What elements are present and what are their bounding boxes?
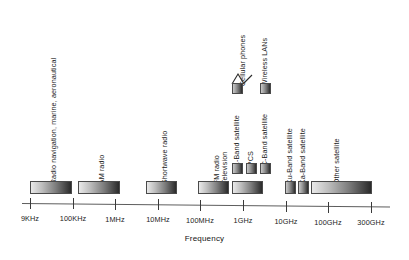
axis-tick-label-300ghz: 300GHz (357, 218, 384, 227)
axis-tick-label-100ghz: 100GHz (314, 218, 341, 227)
band-bar-am-radio (78, 181, 120, 194)
frequency-axis-line (22, 203, 390, 208)
band-label-l-band-satellite: L-Band satellite (233, 115, 240, 166)
band-label-other-satellite: Other satellite (333, 138, 340, 184)
axis-tick (286, 201, 287, 212)
axis-tick (73, 198, 74, 209)
band-label-am-radio: AM radio (98, 155, 105, 185)
band-label-wireless-lans: Wireless LANs (261, 38, 268, 86)
axis-tick-label-9khz: 9KHz (21, 214, 39, 223)
band-bar-ka-band-satellite (298, 181, 309, 194)
axis-tick (371, 202, 372, 213)
axis-tick (115, 199, 116, 210)
band-bar-wireless-lans (260, 83, 271, 94)
band-bar-l-band-satellite (232, 163, 243, 174)
band-label-ku-band-satellite: Ku-Band satellite (286, 128, 293, 184)
axis-tick-label-100mhz: 100MHz (186, 216, 214, 225)
axis-tick-label-10ghz: 10GHz (274, 217, 297, 226)
band-label-c-band-satellite: C-Band satellite (261, 114, 268, 166)
band-bar-other-satellite (311, 181, 372, 194)
band-label-shortwave-radio: Shortwave radio (161, 131, 168, 184)
band-bar-shortwave-radio (146, 181, 177, 194)
axis-tick-label-1mhz: 1MHz (105, 215, 124, 224)
band-label-ka-band-satellite: Ka-Band satellite (299, 128, 306, 184)
axis-tick (243, 200, 244, 211)
axis-tick (30, 198, 31, 209)
band-bar-fm-radio (198, 181, 229, 194)
axis-tick (200, 200, 201, 211)
band-bar-c-band-satellite (260, 163, 271, 174)
band-bar-ku-band-satellite (285, 181, 296, 194)
axis-tick (328, 202, 329, 213)
band-bar-cellular-phones (232, 83, 243, 94)
axis-tick-label-1ghz: 1GHz (233, 216, 252, 225)
axis-tick-label-10mhz: 10MHz (146, 215, 170, 224)
band-bar-television (232, 181, 263, 194)
axis-title: Frequency (0, 234, 409, 243)
spectrum-chart: Radio navigation, marine, aeronautical A… (0, 0, 409, 260)
axis-tick (158, 199, 159, 210)
band-bar-pcs (246, 163, 257, 174)
band-bar-radio-navigation (30, 181, 72, 194)
band-label-radio-navigation: Radio navigation, marine, aeronautical (50, 58, 57, 184)
band-label-television: Television (221, 152, 228, 185)
axis-tick-label-100khz: 100KHz (60, 214, 87, 223)
